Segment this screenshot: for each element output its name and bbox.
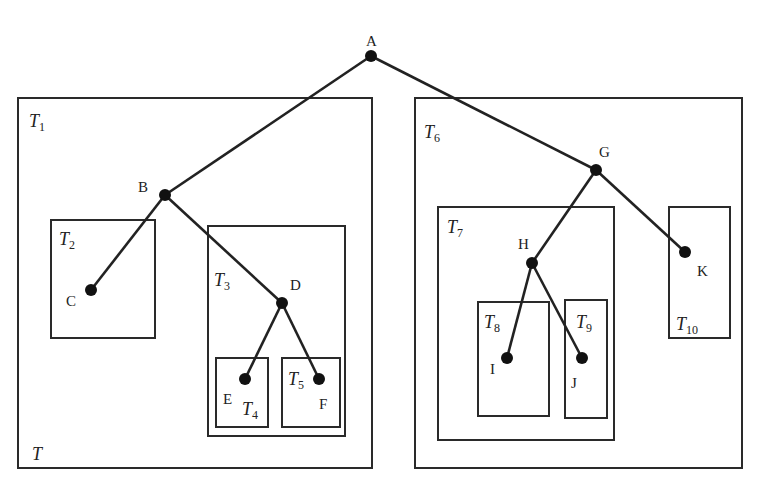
- subtree-label-t10: T10: [676, 314, 698, 337]
- edge-h-j: [532, 263, 582, 358]
- subtree-label-t6: T6: [424, 122, 440, 145]
- subtree-label-t2: T2: [59, 229, 75, 252]
- edge-h-i: [507, 263, 532, 358]
- node-h: [526, 257, 538, 269]
- node-c: [85, 284, 97, 296]
- edge-g-k: [596, 170, 685, 252]
- subtree-label-t5: T5: [288, 369, 304, 392]
- node-e: [239, 373, 251, 385]
- subtree-label-t9: T9: [576, 312, 592, 335]
- tree-edges: [91, 56, 685, 379]
- subtree-box-t6: [415, 98, 742, 468]
- node-label-e: E: [223, 391, 232, 407]
- node-label-d: D: [290, 277, 301, 293]
- node-label-h: H: [518, 236, 529, 252]
- edge-g-h: [532, 170, 596, 263]
- tree-diagram: T T1T2T3T4T5T6T7T8T9T10ABCDEFGHIJK: [0, 0, 760, 495]
- edge-b-c: [91, 195, 165, 290]
- node-f: [313, 373, 325, 385]
- edge-d-f: [282, 303, 319, 379]
- subtree-label-t7: T7: [447, 217, 463, 240]
- node-i: [501, 352, 513, 364]
- edge-a-b: [165, 56, 371, 195]
- node-j: [576, 352, 588, 364]
- node-label-k: K: [697, 263, 708, 279]
- whole-tree-label: T: [32, 444, 44, 464]
- node-label-c: C: [66, 293, 76, 309]
- subtree-boxes: [18, 98, 742, 468]
- node-g: [590, 164, 602, 176]
- node-b: [159, 189, 171, 201]
- subtree-label-t1: T1: [29, 111, 45, 134]
- node-label-i: I: [490, 361, 495, 377]
- tree-nodes: [85, 50, 691, 385]
- node-label-j: J: [571, 375, 577, 391]
- node-d: [276, 297, 288, 309]
- subtree-label-t4: T4: [242, 399, 258, 422]
- subtree-box-t1: [18, 98, 372, 468]
- node-k: [679, 246, 691, 258]
- node-label-a: A: [366, 33, 377, 49]
- subtree-label-t8: T8: [484, 312, 500, 335]
- edge-a-g: [371, 56, 596, 170]
- edge-d-e: [245, 303, 282, 379]
- node-a: [365, 50, 377, 62]
- subtree-label-t3: T3: [214, 270, 230, 293]
- node-label-f: F: [319, 396, 327, 412]
- node-label-b: B: [138, 179, 148, 195]
- node-label-g: G: [599, 144, 610, 160]
